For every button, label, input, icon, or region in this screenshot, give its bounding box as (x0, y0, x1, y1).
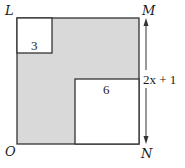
small-square-label: 3 (31, 38, 38, 53)
arrow-down-icon (144, 136, 149, 144)
side-length-label: 2x + 1 (143, 72, 176, 87)
vertex-label-O: O (5, 144, 16, 159)
vertex-label-L: L (4, 3, 14, 18)
vertex-label-N: N (140, 146, 153, 161)
large-square-label: 6 (103, 82, 110, 97)
vertex-label-M: M (141, 3, 156, 18)
arrow-up-icon (144, 18, 149, 26)
geometry-diagram: L M O N 3 6 2x + 1 (0, 0, 185, 168)
